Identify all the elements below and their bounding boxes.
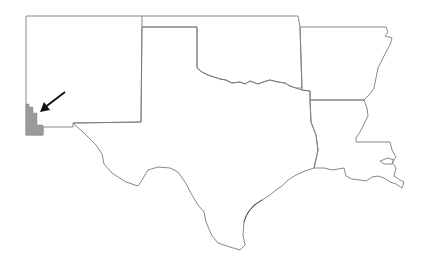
state-outline-map: [0, 0, 427, 260]
gulf-coastline: [244, 200, 262, 222]
state-new-mexico: [26, 16, 142, 135]
state-louisiana: [310, 100, 404, 188]
state-arkansas: [300, 27, 392, 100]
state-texas: [73, 27, 318, 250]
lake-pontchartrain: [380, 158, 394, 164]
pointer-arrow-icon: [40, 92, 65, 112]
highlighted-region: [26, 104, 43, 135]
map-canvas: [0, 0, 427, 260]
